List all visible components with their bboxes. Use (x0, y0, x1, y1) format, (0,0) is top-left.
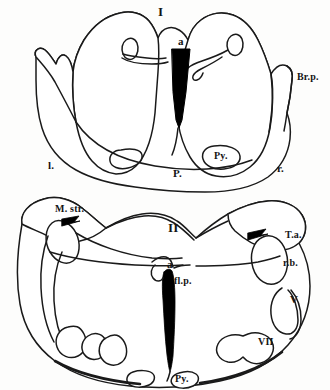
section-one-right-inner-notch (227, 34, 243, 55)
restiform-body-label: r.b. (283, 258, 298, 268)
section-two-drawing (18, 198, 310, 389)
section-one-brachium-pontis-label: Br.p. (297, 72, 319, 82)
right-side-label: r. (277, 163, 284, 174)
medullary-striae-label: M. str. (55, 204, 84, 214)
brainstem-sections-drawing (0, 0, 330, 390)
trigeminal-label: V (290, 294, 298, 305)
section-two-aqueduct-label: a (167, 259, 173, 270)
section-two-numeral: II (168, 221, 179, 234)
fasciculus-longitudinalis-posterior-label: fl.p. (174, 276, 192, 286)
section-one-left-lobe (73, 12, 159, 174)
left-side-label: l. (48, 160, 54, 171)
section-one-numeral: I (158, 5, 163, 18)
section-one-pyramid-label: Py. (214, 151, 228, 161)
section-two-olive-lobe-left (56, 326, 86, 357)
section-one-aqueduct-label: a (178, 36, 184, 47)
figure-page: I a Br.p. Py. P. l. r. II M. str. a fl.p… (0, 0, 330, 390)
section-one-pons-label: P. (173, 168, 182, 179)
section-two-olive-lobe-right (99, 335, 126, 365)
section-one-drawing (35, 12, 292, 192)
section-two-pyramid-label: Py. (175, 374, 189, 384)
tuberculum-acusticum-label: T.a. (285, 230, 302, 240)
facial-nerve-label: VII (258, 337, 274, 347)
